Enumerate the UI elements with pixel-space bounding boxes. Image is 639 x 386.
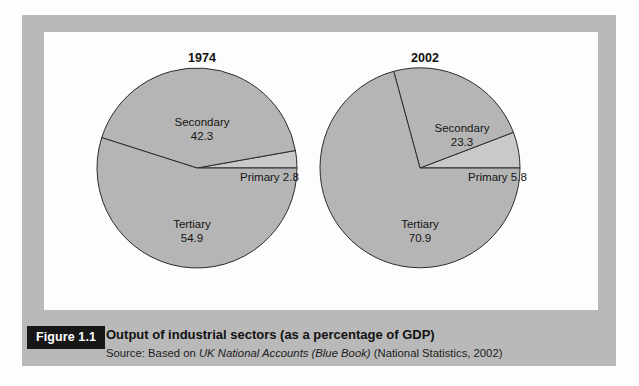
pie-label-1974-primary: Primary 2.8 [240, 170, 340, 184]
pie-charts-svg [22, 15, 616, 366]
pie-label-2002-tertiary-value: 70.9 [360, 231, 480, 245]
pie-label-1974-secondary-name: Secondary [175, 116, 230, 128]
pie-label-1974-tertiary-value: 54.9 [132, 231, 252, 245]
chart-title-2002: 2002 [365, 51, 485, 65]
figure-caption-band: Figure 1.1 Output of industrial sectors … [22, 318, 616, 366]
pie-label-2002-primary: Primary 5.8 [468, 170, 568, 184]
pie-label-1974-tertiary-name: Tertiary [173, 218, 211, 230]
pie-label-2002-secondary-value: 23.3 [402, 135, 522, 149]
source-prefix: Source: Based on [106, 347, 199, 359]
pie-label-2002-tertiary: Tertiary 70.9 [360, 217, 480, 245]
pie-label-2002-secondary-name: Secondary [435, 122, 490, 134]
figure-container: 1974 2002 Secondary 42.3 Tertiary 54.9 P… [0, 0, 639, 386]
pie-label-2002-secondary: Secondary 23.3 [402, 121, 522, 149]
figure-caption-source: Source: Based on UK National Accounts (B… [106, 346, 502, 361]
source-suffix: (National Statistics, 2002) [371, 347, 503, 359]
pie-label-1974-tertiary: Tertiary 54.9 [132, 217, 252, 245]
chart-title-1974: 1974 [142, 51, 262, 65]
pie-label-1974-secondary-value: 42.3 [142, 129, 262, 143]
figure-panel: 1974 2002 Secondary 42.3 Tertiary 54.9 P… [22, 15, 616, 366]
source-publication: UK National Accounts (Blue Book) [199, 347, 371, 359]
pie-label-1974-secondary: Secondary 42.3 [142, 115, 262, 143]
figure-caption-title: Output of industrial sectors (as a perce… [106, 326, 435, 343]
figure-number-badge: Figure 1.1 [27, 326, 105, 349]
pie-label-2002-tertiary-name: Tertiary [401, 218, 439, 230]
